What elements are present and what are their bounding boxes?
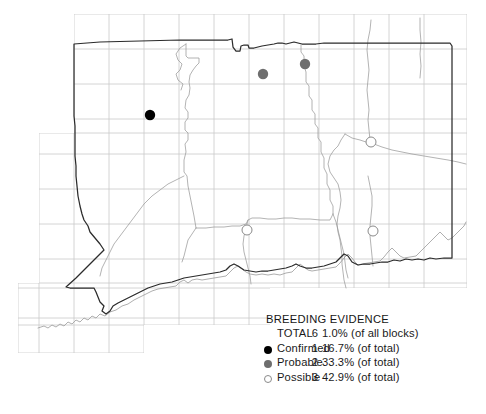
legend-count-probable: 2	[298, 356, 318, 368]
county-boundaries	[100, 18, 466, 288]
legend-count-possible: 3	[298, 371, 318, 383]
legend-count-total: 6	[298, 327, 318, 339]
possible-marker-icon	[264, 375, 272, 383]
point-possible	[242, 225, 252, 235]
point-probable	[258, 69, 268, 79]
state-outline	[66, 39, 452, 314]
point-possible	[366, 137, 376, 147]
point-confirmed	[145, 110, 155, 120]
legend-percent-possible: 42.9% (of total)	[322, 371, 399, 383]
legend-percent-confirmed: 16.7% (of total)	[322, 342, 399, 354]
point-possible	[368, 226, 378, 236]
probable-marker-icon	[264, 360, 272, 368]
legend-row-total: TOTAL 6 1.0% (of all blocks)	[264, 327, 478, 342]
legend-row-probable: Probable 2 33.3% (of total)	[264, 356, 478, 371]
evidence-points	[145, 59, 378, 236]
legend-percent-probable: 33.3% (of total)	[322, 356, 399, 368]
breeding-evidence-legend: BREEDING EVIDENCE TOTAL 6 1.0% (of all b…	[264, 313, 478, 385]
legend-row-possible: Possible 3 42.9% (of total)	[264, 371, 478, 386]
breeding-evidence-map-figure: BREEDING EVIDENCE TOTAL 6 1.0% (of all b…	[0, 0, 486, 414]
legend-percent-total: 1.0% (of all blocks)	[322, 327, 419, 339]
confirmed-marker-icon	[264, 346, 272, 354]
legend-count-confirmed: 1	[298, 342, 318, 354]
legend-row-confirmed: Confirmed 1 16.7% (of total)	[264, 342, 478, 357]
point-probable	[300, 59, 310, 69]
legend-title: BREEDING EVIDENCE	[266, 313, 478, 325]
